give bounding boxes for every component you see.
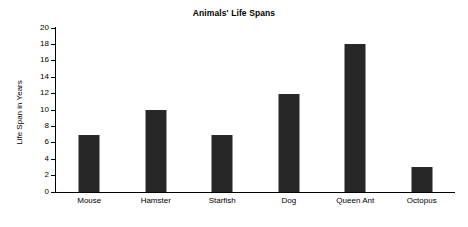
x-tick-label: Starfish (209, 196, 236, 205)
bar[interactable] (278, 94, 299, 192)
y-tick-label: 8 (9, 121, 49, 131)
y-tick-label: 12 (9, 88, 49, 98)
x-tick-label: Mouse (77, 196, 101, 205)
y-tick-label: 0 (9, 187, 49, 197)
bar-group: Starfish (189, 28, 256, 192)
bar-chart: Animals' Life Spans Life Span in Years 0… (0, 0, 468, 227)
y-tick-label: 2 (9, 170, 49, 180)
y-tick-label: 18 (9, 39, 49, 49)
y-tick-label: 4 (9, 154, 49, 164)
bar-group: Dog (256, 28, 323, 192)
y-tick-label: 16 (9, 55, 49, 65)
plot-area: 02468101214161820 MouseHamsterStarfishDo… (56, 28, 455, 192)
y-tick-label: 14 (9, 72, 49, 82)
x-tick-label: Octopus (407, 196, 437, 205)
bar[interactable] (145, 110, 166, 192)
bar[interactable] (345, 44, 366, 192)
bar[interactable] (212, 135, 233, 192)
chart-title: Animals' Life Spans (0, 8, 468, 18)
bar[interactable] (79, 135, 100, 192)
bar-group: Octopus (389, 28, 456, 192)
x-tick-label: Queen Ant (336, 196, 374, 205)
bar-group: Hamster (123, 28, 190, 192)
x-tick-label: Dog (281, 196, 296, 205)
bar-group: Queen Ant (322, 28, 389, 192)
bar-group: Mouse (56, 28, 123, 192)
y-tick-label: 10 (9, 105, 49, 115)
y-tick-label: 6 (9, 137, 49, 147)
y-tick-label: 20 (9, 23, 49, 33)
x-tick-label: Hamster (141, 196, 171, 205)
bar[interactable] (411, 167, 432, 192)
